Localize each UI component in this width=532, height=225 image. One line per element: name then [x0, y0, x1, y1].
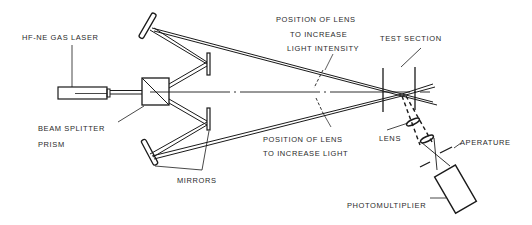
- input-beam: [110, 91, 142, 95]
- scatter-beams: [402, 96, 432, 145]
- label-test-section: TEST SECTION: [380, 35, 442, 43]
- test-section: [383, 48, 421, 112]
- mirror-bottom-left: [141, 139, 159, 166]
- label-lens-lower-1: POSITION OF LENS: [263, 136, 343, 144]
- beam-splitter-prism: [118, 78, 169, 122]
- label-lens-lower-2: TO INCREASE LIGHT: [263, 150, 348, 158]
- label-lens-upper-1: POSITION OF LENS: [276, 16, 356, 24]
- label-beam-splitter-1: BEAM SPLITTER: [38, 125, 105, 133]
- label-lens-upper-3: LIGHT INTENSITY: [287, 45, 359, 53]
- mirror-link-beams: [150, 28, 207, 157]
- lens-element: [387, 117, 420, 130]
- label-beam-splitter-2: PRISM: [38, 141, 65, 149]
- mirror-top-left: [138, 12, 156, 39]
- photomultiplier: [435, 165, 477, 213]
- label-mirrors: MIRRORS: [177, 177, 217, 185]
- laser-body: [58, 45, 110, 99]
- mirror-lower-small: [207, 108, 210, 130]
- label-lens: LENS: [379, 135, 401, 143]
- label-photomultiplier: PHOTOMULTIPLIER: [347, 202, 426, 210]
- label-aperture: APERATURE: [460, 139, 511, 147]
- label-laser: HF-NE GAS LASER: [22, 34, 99, 42]
- label-lens-upper-2: TO INCREASE: [290, 31, 347, 39]
- mirror-upper-small: [207, 53, 210, 75]
- splitter-beams: [169, 62, 207, 125]
